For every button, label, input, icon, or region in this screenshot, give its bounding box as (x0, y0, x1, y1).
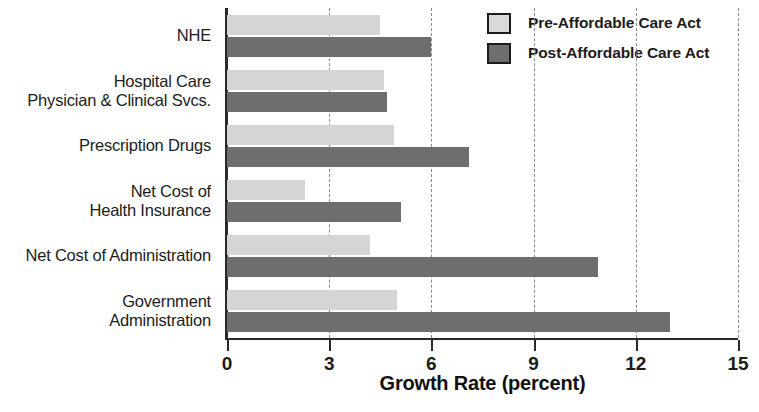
y-axis-label: Government Administration (109, 292, 211, 330)
x-axis-line (225, 338, 738, 340)
y-axis-label: Prescription Drugs (79, 136, 211, 155)
bar-pre (227, 70, 384, 90)
x-tick-6 (431, 340, 433, 351)
x-tick-15 (738, 340, 740, 351)
x-tick-0 (227, 340, 229, 351)
bar-post (227, 92, 387, 112)
bar-chart-figure: Pre-Affordable Care Act Post-Affordable … (0, 0, 759, 412)
bar-post (227, 37, 431, 57)
y-axis-label: Net Cost of Administration (25, 246, 211, 265)
bar-group (227, 63, 738, 118)
x-tick-9 (534, 340, 536, 351)
x-axis-title: Growth Rate (percent) (227, 372, 738, 395)
y-axis-label: Net Cost of Health Insurance (89, 182, 211, 220)
y-axis-category-labels: NHEHospital Care Physician & Clinical Sv… (0, 8, 219, 338)
bar-post (227, 257, 598, 277)
bar-group (227, 8, 738, 63)
y-axis-label: Hospital Care Physician & Clinical Svcs. (27, 72, 211, 110)
bar-group (227, 118, 738, 173)
bar-group (227, 228, 738, 283)
bar-pre (227, 235, 370, 255)
y-axis-label: NHE (177, 26, 211, 45)
plot-area: 03691215 (227, 8, 738, 338)
bar-post (227, 202, 401, 222)
bar-group (227, 283, 738, 338)
x-tick-3 (329, 340, 331, 351)
gridline-15 (738, 8, 739, 338)
bar-pre (227, 180, 305, 200)
bar-post (227, 312, 670, 332)
bar-group (227, 173, 738, 228)
bar-post (227, 147, 469, 167)
bar-pre (227, 125, 394, 145)
x-tick-12 (636, 340, 638, 351)
bar-pre (227, 15, 380, 35)
bar-pre (227, 290, 397, 310)
